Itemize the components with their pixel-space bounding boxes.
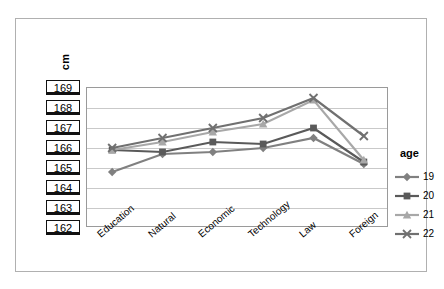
legend-title: age <box>400 147 444 159</box>
series-marker-20 <box>209 139 216 146</box>
series-marker-20 <box>310 125 317 132</box>
y-axis-tick-168: 168 <box>46 100 80 115</box>
legend-swatch-22 <box>394 227 420 241</box>
series-marker-19 <box>108 168 116 176</box>
legend-marker-20 <box>404 192 411 199</box>
series-marker-22 <box>360 132 368 140</box>
x-axis-tick-labels: EducationNaturalEconomicTechnologyLawFor… <box>86 229 388 287</box>
legend-label-21: 21 <box>423 209 434 220</box>
y-axis-tick-165: 165 <box>46 160 80 175</box>
legend-label-22: 22 <box>423 228 434 239</box>
legend-label-20: 20 <box>423 190 434 201</box>
y-axis-tick-163: 163 <box>46 200 80 215</box>
series-line-22 <box>112 98 364 148</box>
y-axis-tick-169: 169 <box>46 80 80 95</box>
series-marker-20 <box>260 141 267 148</box>
legend-swatch-19 <box>394 170 420 184</box>
legend-item-19: 19 <box>394 167 444 186</box>
y-axis-tick-labels: 169168167166165164163162 <box>46 79 82 235</box>
y-axis-tick-166: 166 <box>46 140 80 155</box>
legend-item-21: 21 <box>394 205 444 224</box>
y-axis-tick-164: 164 <box>46 180 80 195</box>
y-axis-tick-162: 162 <box>46 220 80 235</box>
y-axis-title: cm <box>52 51 78 73</box>
legend-item-20: 20 <box>394 186 444 205</box>
legend-marker-19 <box>403 172 411 180</box>
series-marker-19 <box>209 148 217 156</box>
chart-frame: cm 169168167166165164163162 EducationNat… <box>15 18 427 272</box>
legend-item-22: 22 <box>394 224 444 243</box>
legend-label-19: 19 <box>423 171 434 182</box>
legend-swatch-21 <box>394 208 420 222</box>
legend-rows: 19202122 <box>394 167 444 243</box>
series-21 <box>108 96 368 164</box>
legend: age 19202122 <box>394 147 444 257</box>
y-axis-tick-167: 167 <box>46 120 80 135</box>
legend-swatch-20 <box>394 189 420 203</box>
series-marker-19 <box>309 134 317 142</box>
series-marker-20 <box>159 149 166 156</box>
